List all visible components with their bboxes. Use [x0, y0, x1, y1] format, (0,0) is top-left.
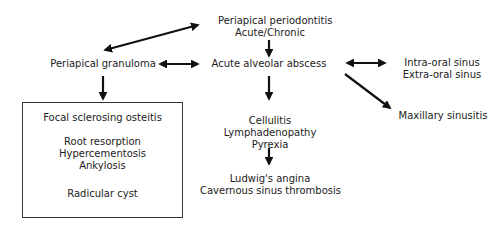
node-periodontitis-line2: Acute/Chronic	[218, 27, 322, 39]
outcome-root-resorption: Root resorption	[23, 136, 182, 148]
outcome-radicular-cyst: Radicular cyst	[23, 188, 182, 200]
node-periapical-granuloma: Periapical granuloma	[48, 58, 158, 70]
outcome-focal-sclerosing-osteitis: Focal sclerosing osteitis	[23, 112, 182, 124]
node-pyrexia: Pyrexia	[222, 139, 318, 151]
node-cellulitis: Cellulitis	[222, 115, 318, 127]
outcome-ankylosis: Ankylosis	[23, 160, 182, 172]
arrow-periodontitis-granuloma	[105, 25, 198, 50]
outcome-hypercementosis: Hypercementosis	[23, 148, 182, 160]
node-acute-alveolar-abscess: Acute alveolar abscess	[208, 58, 330, 70]
node-cavernous-sinus-thrombosis: Cavernous sinus thrombosis	[200, 185, 340, 197]
node-maxillary-sinusitis: Maxillary sinusitis	[398, 110, 488, 122]
node-periodontitis-line1: Periapical periodontitis	[218, 15, 322, 27]
node-periapical-periodontitis: Periapical periodontitis Acute/Chronic	[218, 15, 322, 39]
node-lymphadenopathy: Lymphadenopathy	[222, 127, 318, 139]
node-ludwigs-angina: Ludwig's angina	[200, 173, 340, 185]
node-sinus-extra: Extra-oral sinus	[400, 69, 484, 81]
outcome-group2: Root resorption Hypercementosis Ankylosi…	[23, 136, 182, 172]
arrow-abscess-maxillary	[345, 74, 390, 108]
node-sinus: Intra-oral sinus Extra-oral sinus	[400, 57, 484, 81]
node-severe: Ludwig's angina Cavernous sinus thrombos…	[200, 173, 340, 197]
node-systemic: Cellulitis Lymphadenopathy Pyrexia	[222, 115, 318, 151]
node-sinus-intra: Intra-oral sinus	[400, 57, 484, 69]
granuloma-outcomes-box: Focal sclerosing osteitis Root resorptio…	[22, 102, 183, 218]
